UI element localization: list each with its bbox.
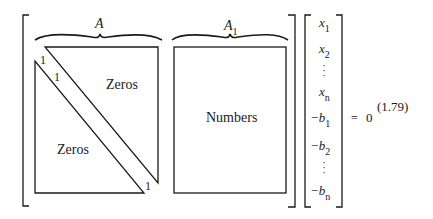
bn-sub: n bbox=[325, 191, 330, 202]
brace-label-a1-subscript: 1 bbox=[233, 26, 238, 37]
vector-entry-x2: x2 bbox=[319, 41, 330, 57]
brace-label-a1: A1 bbox=[224, 19, 238, 33]
x2-sub: 2 bbox=[325, 49, 330, 60]
diagonal-one-top-outer: 1 bbox=[40, 54, 46, 66]
vertical-ellipsis-b: ··· bbox=[321, 160, 327, 175]
vector-entry-xn: xn bbox=[319, 84, 330, 100]
brace-a1 bbox=[172, 34, 288, 40]
vector-entry-bn: −bn bbox=[310, 183, 330, 199]
diagonal-one-bottom: 1 bbox=[145, 180, 151, 192]
vector-right-bracket bbox=[336, 15, 342, 207]
vector-entry-b2: −b2 bbox=[310, 138, 330, 154]
x2-var: x bbox=[319, 41, 325, 56]
brace-a bbox=[35, 34, 162, 40]
xn-sub: n bbox=[325, 92, 330, 103]
diagonal-one-top-inner: 1 bbox=[54, 71, 60, 83]
rhs-zero: 0 bbox=[366, 111, 373, 124]
outer-right-bracket bbox=[288, 15, 295, 207]
brace-label-a1-main: A bbox=[224, 18, 233, 33]
equals-sign: = bbox=[351, 112, 358, 124]
vertical-ellipsis-x: ··· bbox=[321, 63, 327, 78]
b1-sub: 1 bbox=[325, 118, 330, 129]
block-a-upper-triangle bbox=[45, 47, 158, 183]
vector-entry-b1: −b1 bbox=[310, 110, 330, 126]
equation-number: (1.79) bbox=[377, 100, 408, 113]
outer-left-bracket bbox=[23, 15, 29, 206]
lower-zeros-label: Zeros bbox=[57, 143, 89, 157]
b2-sub: 2 bbox=[325, 146, 330, 157]
x1-sub: 1 bbox=[325, 23, 330, 34]
x1-var: x bbox=[319, 15, 325, 30]
brace-label-a: A bbox=[95, 17, 104, 31]
xn-var: x bbox=[319, 84, 325, 99]
b1-var: −b bbox=[310, 110, 325, 125]
b2-var: −b bbox=[310, 138, 325, 153]
bn-var: −b bbox=[310, 183, 325, 198]
numbers-label: Numbers bbox=[206, 111, 257, 125]
vector-entry-x1: x1 bbox=[319, 15, 330, 31]
upper-zeros-label: Zeros bbox=[106, 78, 138, 92]
